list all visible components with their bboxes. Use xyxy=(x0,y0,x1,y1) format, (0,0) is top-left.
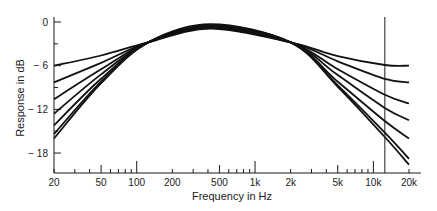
x-tick-label: 10k xyxy=(365,177,382,188)
x-tick-label: 500 xyxy=(211,177,228,188)
x-tick-label: 100 xyxy=(128,177,145,188)
y-tick-label: − 12 xyxy=(28,104,48,115)
response-curve-curve-7 xyxy=(54,24,409,165)
x-tick-label: 2k xyxy=(285,177,297,188)
response-curves xyxy=(54,24,409,165)
x-tick-label: 50 xyxy=(96,177,108,188)
x-tick-label: 200 xyxy=(164,177,181,188)
y-axis-title: Response in dB xyxy=(14,59,26,137)
x-axis: 20501002005001k2k5k10k20k xyxy=(48,161,421,188)
y-tick-label: 0 xyxy=(42,17,48,28)
x-axis-title: Frequency in Hz xyxy=(192,190,272,202)
x-tick-label: 5k xyxy=(332,177,344,188)
response-curve-curve-6 xyxy=(54,25,409,159)
x-tick-label: 20k xyxy=(401,177,418,188)
y-tick-label: − 18 xyxy=(28,148,48,159)
frequency-response-chart: 0− 6− 12− 18 20501002005001k2k5k10k20k R… xyxy=(0,0,437,211)
y-tick-label: − 6 xyxy=(34,60,49,71)
x-tick-label: 20 xyxy=(48,177,60,188)
y-axis: 0− 6− 12− 18 xyxy=(28,17,61,174)
response-curve-curve-3 xyxy=(54,27,409,103)
x-tick-label: 1k xyxy=(250,177,262,188)
response-curve-curve-5 xyxy=(54,26,409,139)
